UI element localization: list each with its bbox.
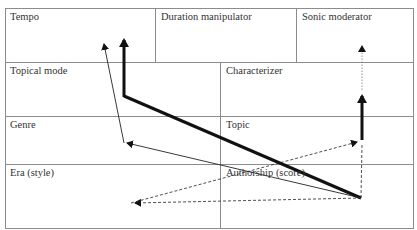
dashed-origin-to-topic <box>361 144 362 198</box>
cell-label-duration-manipulator: Duration manipulator <box>161 11 252 23</box>
cell-label-characterizer: Characterizer <box>226 65 283 77</box>
cell-label-topic: Topic <box>226 119 250 131</box>
cell-label-authorship-score: Authorship (score) <box>226 167 305 179</box>
cell-label-sonic-moderator: Sonic moderator <box>302 11 372 23</box>
cell-label-topical-mode: Topical mode <box>10 65 67 77</box>
dashed-arrow-to-era <box>135 198 361 203</box>
cell-label-tempo: Tempo <box>10 11 39 23</box>
diagram-canvas <box>0 0 417 230</box>
cell-label-genre: Genre <box>10 119 36 131</box>
cell-label-era-style: Era (style) <box>10 167 54 179</box>
